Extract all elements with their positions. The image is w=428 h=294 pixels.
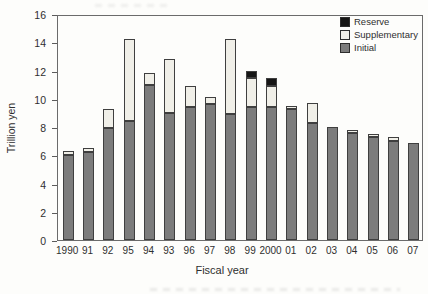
legend-item-initial: Initial <box>340 43 418 53</box>
y-tick-mark <box>52 213 57 214</box>
bar-segment-initial <box>83 152 94 240</box>
bar-94 <box>144 73 155 240</box>
x-tick-label: 96 <box>184 245 195 256</box>
y-tick-label: 10 <box>0 94 46 106</box>
bar-95 <box>124 39 135 240</box>
bar-07 <box>408 143 419 240</box>
bar-segment-initial <box>185 107 196 240</box>
bar-segment-reserve <box>266 78 277 86</box>
bar-segment-supplementary <box>124 39 135 121</box>
bar-segment-initial <box>225 114 236 240</box>
bar-segment-initial <box>144 85 155 240</box>
bar-segment-initial <box>368 137 379 240</box>
legend-swatch-supplementary-icon <box>340 30 350 40</box>
bar-segment-initial <box>246 107 257 240</box>
y-tick-mark <box>52 241 57 242</box>
x-tick-label: 91 <box>82 245 93 256</box>
x-tick-label: 06 <box>387 245 398 256</box>
bar-2000 <box>266 78 277 240</box>
bar-segment-supplementary <box>246 78 257 108</box>
y-tick-label: 16 <box>0 9 46 21</box>
bar-99 <box>246 71 257 240</box>
legend: ReserveSupplementaryInitial <box>340 17 418 56</box>
bar-04 <box>347 130 358 240</box>
bar-segment-initial <box>347 133 358 240</box>
bar-segment-initial <box>205 104 216 240</box>
figure-canvas: Trillion yen 0246810121416 1990919295949… <box>0 0 428 294</box>
y-tick-mark <box>52 185 57 186</box>
x-tick-label: 03 <box>326 245 337 256</box>
bar-segment-supplementary <box>307 103 318 123</box>
x-tick-label: 98 <box>224 245 235 256</box>
bar-05 <box>368 134 379 240</box>
y-tick-mark <box>52 15 57 16</box>
bar-segment-supplementary <box>185 86 196 107</box>
bar-01 <box>286 106 297 240</box>
y-tick-label: 2 <box>0 207 46 219</box>
x-tick-label: 92 <box>102 245 113 256</box>
bar-segment-supplementary <box>205 97 216 104</box>
legend-label: Initial <box>354 43 376 53</box>
y-tick-mark <box>52 156 57 157</box>
x-tick-label: 05 <box>367 245 378 256</box>
bar-segment-reserve <box>246 71 257 78</box>
bar-segment-initial <box>286 109 297 240</box>
y-tick-mark <box>52 128 57 129</box>
bar-segment-supplementary <box>266 86 277 107</box>
y-tick-mark <box>52 100 57 101</box>
bar-segment-initial <box>408 143 419 240</box>
bar-03 <box>327 127 338 240</box>
bar-93 <box>164 59 175 240</box>
x-tick-label: 93 <box>163 245 174 256</box>
y-tick-label: 14 <box>0 37 46 49</box>
scan-artifact <box>95 4 170 7</box>
bar-1990 <box>63 151 74 240</box>
bar-segment-initial <box>388 141 399 240</box>
x-tick-label: 99 <box>245 245 256 256</box>
y-tick-label: 6 <box>0 150 46 162</box>
x-tick-label: 95 <box>123 245 134 256</box>
y-tick-label: 0 <box>0 235 46 247</box>
bar-segment-supplementary <box>225 39 236 114</box>
legend-label: Supplementary <box>354 30 418 40</box>
x-axis-title: Fiscal year <box>195 264 248 276</box>
legend-item-reserve: Reserve <box>340 17 418 27</box>
x-tick-label: 2000 <box>259 245 281 256</box>
x-tick-label: 01 <box>285 245 296 256</box>
bar-segment-initial <box>124 121 135 240</box>
y-tick-label: 12 <box>0 66 46 78</box>
x-tick-label: 07 <box>407 245 418 256</box>
x-tick-label: 97 <box>204 245 215 256</box>
legend-swatch-reserve-icon <box>340 17 350 27</box>
bar-91 <box>83 148 94 240</box>
bar-segment-initial <box>103 128 114 240</box>
bar-96 <box>185 86 196 240</box>
y-tick-label: 8 <box>0 122 46 134</box>
x-tick-label: 1990 <box>56 245 78 256</box>
bar-segment-initial <box>307 123 318 240</box>
x-tick-label: 04 <box>346 245 357 256</box>
x-tick-label: 02 <box>306 245 317 256</box>
bar-98 <box>225 39 236 240</box>
scan-artifact <box>150 288 400 291</box>
y-tick-mark <box>52 72 57 73</box>
bar-segment-supplementary <box>144 73 155 84</box>
bar-segment-initial <box>164 113 175 240</box>
bar-segment-initial <box>266 107 277 240</box>
bar-segment-initial <box>327 127 338 240</box>
y-tick-mark <box>52 43 57 44</box>
legend-item-supplementary: Supplementary <box>340 30 418 40</box>
bar-92 <box>103 109 114 240</box>
bar-02 <box>307 103 318 240</box>
bar-97 <box>205 97 216 240</box>
bar-06 <box>388 137 399 240</box>
x-tick-label: 94 <box>143 245 154 256</box>
bar-segment-supplementary <box>164 59 175 113</box>
legend-label: Reserve <box>354 17 389 27</box>
legend-swatch-initial-icon <box>340 43 350 53</box>
y-tick-label: 4 <box>0 179 46 191</box>
bar-segment-initial <box>63 155 74 240</box>
bar-segment-supplementary <box>103 109 114 129</box>
